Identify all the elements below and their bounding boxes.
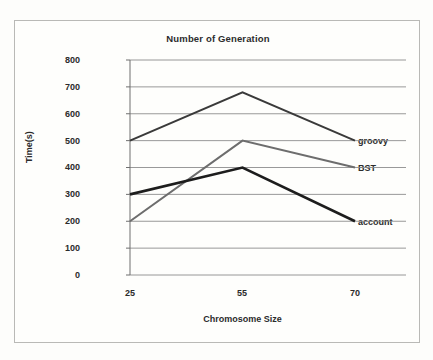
series-label-groovy: groovy (358, 136, 388, 146)
y-axis-title: Time(s) (24, 147, 34, 163)
y-tick-label-200: 200 (40, 216, 80, 226)
x-tick-label-70: 70 (335, 288, 375, 298)
x-axis-title: Chromosome Size (130, 314, 355, 324)
y-tick-label-300: 300 (40, 189, 80, 199)
y-tick-label-100: 100 (40, 243, 80, 253)
y-tick-label-700: 700 (40, 82, 80, 92)
series-label-account: account (358, 217, 393, 227)
y-tick-label-600: 600 (40, 109, 80, 119)
y-tick-label-400: 400 (40, 162, 80, 172)
y-tick-label-500: 500 (40, 136, 80, 146)
y-tick-label-800: 800 (40, 55, 80, 65)
chart-figure: Number of Generation 800 700 600 500 400… (0, 0, 433, 360)
x-tick-label-55: 55 (222, 288, 262, 298)
chart-title: Number of Generation (15, 33, 421, 44)
x-tick-label-25: 25 (110, 288, 150, 298)
series-label-bst: BST (358, 163, 376, 173)
y-tick-label-0: 0 (40, 270, 80, 280)
